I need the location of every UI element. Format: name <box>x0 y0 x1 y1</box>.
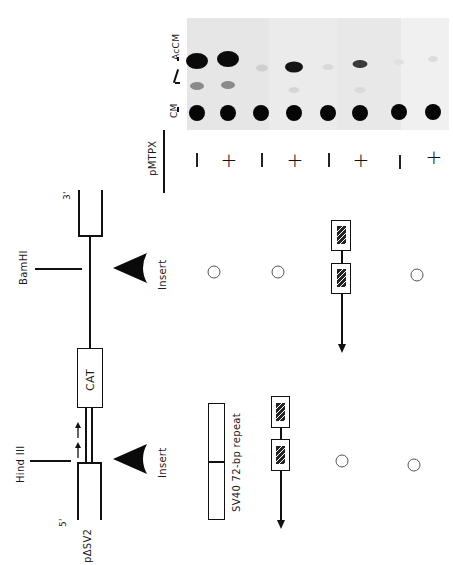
row3-hatch-lower-icon <box>337 269 346 287</box>
accm-label: AcCM <box>171 34 181 60</box>
hind3-label: Hind III <box>15 446 26 483</box>
backbone-upper <box>89 236 91 348</box>
row2-hind3-empty-circle <box>336 455 349 468</box>
row3-hatch-upper-icon <box>337 226 346 244</box>
five-prime-left-edge <box>77 462 79 520</box>
three-prime-right-edge <box>101 190 103 236</box>
promoter-line-2 <box>91 408 93 463</box>
row1-hatch-upper-icon <box>276 403 285 421</box>
sign-plus-lane2: + <box>221 148 238 172</box>
insert-arrowhead-hind3-icon <box>113 443 149 475</box>
spot-cm-lane6 <box>352 105 368 121</box>
accm-tick <box>177 57 179 61</box>
row2-bamhi-empty-circle <box>272 266 285 279</box>
sign-minus-lane5 <box>328 153 330 167</box>
spot-accm-lane3 <box>256 65 268 72</box>
sign-plus-lane4: + <box>287 148 304 172</box>
insert-label-bamhi: Insert <box>157 260 168 290</box>
sign-minus-lane1 <box>196 153 198 167</box>
spot-cm-lane2 <box>220 105 236 121</box>
row4-bamhi-empty-circle <box>411 269 424 282</box>
sv40-repeat-legend-divider <box>208 461 225 463</box>
pmtpx-label: pMTPX <box>147 141 158 176</box>
spot-cm-lane7 <box>391 104 407 120</box>
construct-name: pΔSV2 <box>82 529 93 563</box>
accm-bracket <box>173 69 179 83</box>
spot-accm-lane5 <box>323 64 334 70</box>
spot-accm-lane8 <box>428 56 438 62</box>
accm-bracket-foot <box>175 82 180 84</box>
spot-mid-lane6 <box>355 87 366 93</box>
spot-accm-lane2 <box>217 51 239 67</box>
insert-label-hind3: Insert <box>157 448 168 478</box>
spot-mid-lane1 <box>190 82 204 90</box>
row1-arrow-head-icon <box>276 520 286 530</box>
spot-accm-lane7 <box>394 59 404 65</box>
sign-minus-lane3 <box>261 153 263 167</box>
five-prime-label: 5' <box>58 518 68 527</box>
row3-arrow-shaft <box>341 294 343 346</box>
row1-bamhi-empty-circle <box>208 266 221 279</box>
spot-cm-lane8 <box>425 104 441 120</box>
spot-cm-lane5 <box>320 105 336 121</box>
row1-arrow-shaft <box>280 471 282 523</box>
sign-plus-lane6: + <box>353 148 370 172</box>
bamhi-label: BamHI <box>18 250 29 285</box>
sign-minus-lane7 <box>399 155 401 169</box>
bamhi-site-marker <box>35 268 82 270</box>
cat-label: CAT <box>84 369 97 391</box>
sign-plus-lane8: + <box>426 145 443 169</box>
transcription-arrows-icon <box>74 420 82 460</box>
sv40-repeat-legend-label: SV40 72-bp repeat <box>231 413 242 512</box>
row1-hatch-lower-icon <box>276 446 285 464</box>
row3-arrow-head-icon <box>337 344 347 354</box>
insert-arrowhead-bamhi-icon <box>113 252 149 284</box>
spot-cm-lane3 <box>253 105 269 121</box>
spot-mid-lane4 <box>289 87 300 93</box>
spot-accm-lane6 <box>353 60 368 68</box>
five-prime-top <box>77 462 102 464</box>
three-prime-label: 3' <box>62 191 72 200</box>
spot-mid-lane2 <box>221 81 235 89</box>
spot-cm-lane1 <box>189 105 205 121</box>
spot-accm-lane4 <box>285 62 303 73</box>
promoter-line-1 <box>85 408 87 463</box>
spot-cm-lane4 <box>286 105 302 121</box>
cm-tick <box>177 107 179 112</box>
spot-accm-lane1 <box>186 53 208 69</box>
row4-hind3-empty-circle <box>408 459 421 472</box>
three-prime-left-edge <box>78 190 80 236</box>
three-prime-bottom <box>78 235 103 237</box>
pmtpx-rule <box>163 130 165 193</box>
hind3-site-marker <box>30 460 71 462</box>
five-prime-right-edge <box>100 462 102 520</box>
